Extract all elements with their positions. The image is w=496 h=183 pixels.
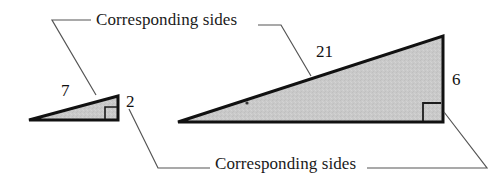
large-triangle-group [178, 36, 443, 122]
hypotenuse-point-marker [245, 101, 248, 104]
similar-triangles-diagram: Corresponding sides Corresponding sides … [0, 0, 496, 183]
corresponding-sides-bottom-label: Corresponding sides [215, 154, 356, 174]
large-triangle-shape [178, 36, 443, 122]
corresponding-sides-top-label: Corresponding sides [96, 10, 237, 30]
top-callout-leaders [52, 20, 311, 95]
small-triangle-group [29, 96, 118, 120]
top-right-leader-line [258, 25, 311, 76]
large-triangle-vertical-side-label: 6 [452, 70, 461, 90]
small-triangle-hypotenuse-label: 7 [61, 81, 70, 101]
small-triangle-vertical-side-label: 2 [126, 92, 135, 112]
top-left-leader-line [52, 20, 96, 95]
large-triangle-hypotenuse-label: 21 [316, 42, 333, 62]
